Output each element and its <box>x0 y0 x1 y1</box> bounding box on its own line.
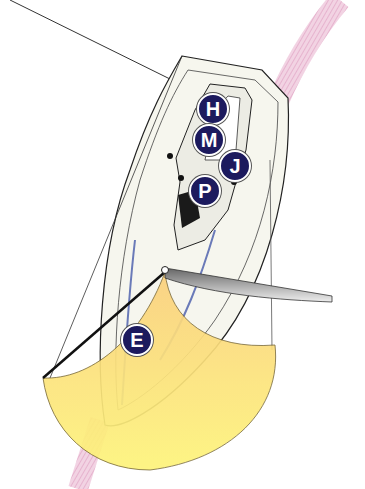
label-marker-J: J <box>219 150 251 182</box>
label-marker-P: P <box>189 175 221 207</box>
label-marker-H: H <box>197 93 229 125</box>
sailboat-diagram: H M J P E <box>0 0 365 489</box>
fitting-dot <box>178 175 184 181</box>
diagram-canvas <box>0 0 365 489</box>
fitting-dot <box>167 153 173 159</box>
guide-line <box>10 0 172 80</box>
label-marker-M: M <box>193 124 225 156</box>
label-marker-E: E <box>121 324 153 356</box>
mast-step <box>162 267 169 274</box>
